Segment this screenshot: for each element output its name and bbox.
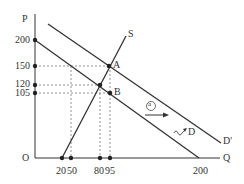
- p-axis-label: P: [22, 14, 28, 24]
- x-tick-200: 200: [193, 166, 208, 176]
- x-tick-95: 95: [105, 166, 115, 176]
- point-a-label: A: [113, 60, 120, 70]
- x-tick-50: 50: [67, 166, 77, 176]
- point-a-dot: [107, 64, 112, 69]
- demand-prime-label: D': [223, 136, 232, 146]
- x-tick-80: 80: [94, 166, 104, 176]
- d-leader-icon: [174, 130, 185, 135]
- point-e0-dot: [98, 83, 103, 88]
- demand-label: D: [188, 127, 195, 137]
- y-tick-200: 200: [6, 35, 30, 45]
- point-b-dot: [108, 91, 113, 96]
- supply-demand-diagram: P Q O 200 150 120 105 20 50 80 95 200 A …: [0, 0, 244, 184]
- supply-label: S: [128, 29, 134, 39]
- point-b-label: B: [114, 87, 121, 97]
- y-tick-105: 105: [6, 88, 30, 98]
- q-axis-label: Q: [223, 153, 230, 163]
- shift-marker-label: a: [148, 101, 151, 108]
- demand-curve-d: [35, 40, 199, 158]
- origin-label: O: [22, 153, 29, 163]
- shift-arrow-icon: [145, 113, 169, 118]
- dashed-guides: [35, 66, 110, 158]
- diagram-canvas: [0, 0, 244, 184]
- supply-curve-s: [62, 36, 126, 158]
- x-tick-20: 20: [56, 166, 66, 176]
- y-tick-150: 150: [6, 61, 30, 71]
- demand-curve-d-prime: [48, 24, 221, 143]
